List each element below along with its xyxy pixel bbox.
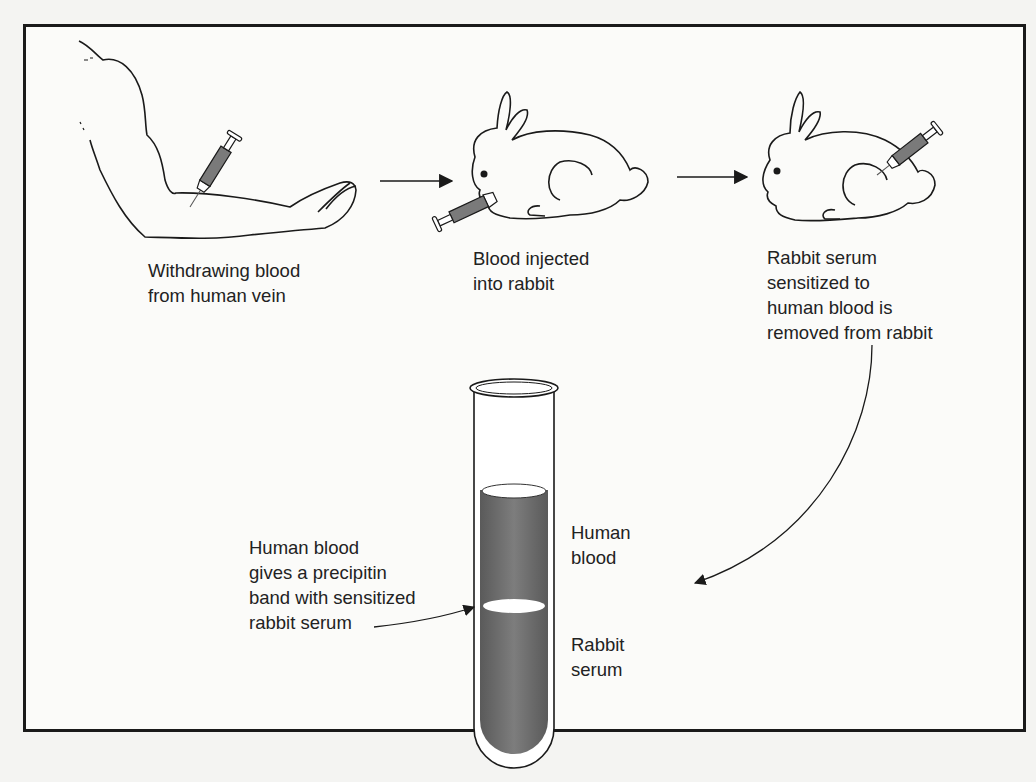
step2-label: Blood injected into rabbit — [473, 246, 589, 296]
syringe-icon-arm — [183, 130, 242, 211]
syringe-icon-mouth — [432, 190, 499, 232]
rabbit-serum-label: Rabbit serum — [571, 632, 624, 682]
human-blood-label: Human blood — [571, 520, 631, 570]
arm-icon — [79, 41, 356, 238]
step1-label: Withdrawing blood from human vein — [148, 258, 300, 308]
test-tube-icon — [470, 379, 558, 768]
precipitin-band-label: Human blood gives a precipitin band with… — [249, 535, 416, 635]
arrow-step3-to-tube — [695, 345, 872, 583]
diagram-artwork — [0, 0, 1036, 782]
step3-label: Rabbit serum sensitized to human blood i… — [767, 245, 933, 345]
rabbit-icon-1 — [472, 92, 648, 219]
